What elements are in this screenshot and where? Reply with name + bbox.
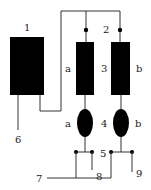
label-9: 9 — [136, 168, 142, 179]
component-3b-block — [111, 42, 130, 95]
label-a-lower: a — [65, 118, 71, 129]
label-8: 8 — [96, 171, 102, 182]
label-1: 1 — [24, 22, 30, 33]
label-a-upper: a — [65, 63, 71, 74]
label-2: 2 — [103, 24, 109, 35]
component-4a-oval — [77, 109, 93, 137]
component-3a-block — [76, 42, 94, 95]
component-1-block — [10, 37, 44, 95]
label-7: 7 — [36, 173, 42, 184]
component-4b-oval — [113, 109, 129, 137]
junction-dot-b — [118, 28, 122, 32]
circuit-diagram: 1 6 2 a 3 b a 4 b 5 8 9 7 — [0, 0, 151, 190]
label-b-upper: b — [136, 63, 142, 74]
label-3: 3 — [101, 63, 107, 74]
label-5: 5 — [100, 148, 106, 159]
label-b-lower: b — [135, 118, 141, 129]
label-4: 4 — [101, 118, 107, 129]
label-6: 6 — [15, 134, 21, 145]
junction-dot-a — [84, 28, 88, 32]
